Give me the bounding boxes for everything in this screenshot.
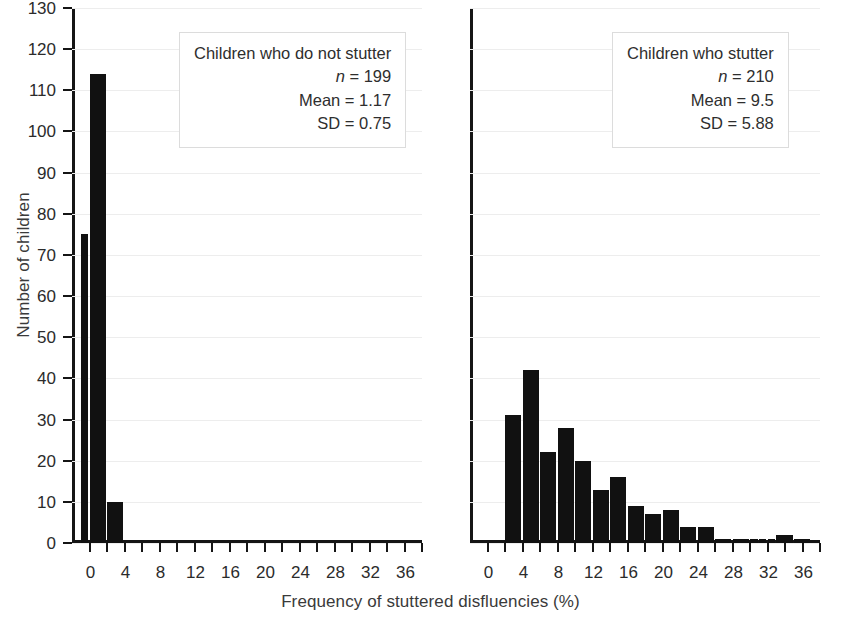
y-axis-tick — [63, 377, 72, 379]
y-axis-tick-label: 30 — [12, 411, 56, 428]
histogram-bar — [593, 490, 609, 544]
x-axis-tick-label: 12 — [176, 564, 216, 581]
x-axis-tick — [194, 543, 196, 552]
y-axis-tick — [63, 7, 72, 9]
y-axis-tick — [63, 213, 72, 215]
x-axis-tick — [386, 543, 388, 552]
x-axis-tick — [264, 543, 266, 552]
x-axis-tick — [662, 543, 664, 552]
x-axis-tick — [124, 543, 126, 552]
histogram-bar — [628, 506, 644, 543]
x-axis-tick — [299, 543, 301, 552]
annotation-mean: Mean = 1.17 — [194, 89, 391, 112]
x-axis-tick-label: 20 — [246, 564, 286, 581]
x-axis-tick — [749, 543, 751, 552]
x-axis-tick — [369, 543, 371, 552]
y-axis-tick — [63, 419, 72, 421]
x-axis-tick-label: 16 — [609, 564, 649, 581]
histogram-bar — [733, 539, 749, 543]
x-axis-tick — [539, 543, 541, 552]
gridline — [470, 173, 820, 174]
x-axis-tick — [644, 543, 646, 552]
x-axis-tick — [404, 543, 406, 552]
gridline — [72, 296, 422, 297]
annotation-sd: SD = 0.75 — [194, 112, 391, 135]
annotation-sd: SD = 5.88 — [627, 112, 774, 135]
y-axis-label: Number of children — [14, 145, 34, 385]
x-axis-tick-label: 4 — [504, 564, 544, 581]
y-axis-line-right — [470, 8, 473, 543]
x-axis-tick-label: 4 — [106, 564, 146, 581]
gridline — [470, 296, 820, 297]
x-axis-tick-label: 16 — [211, 564, 251, 581]
histogram-bar — [715, 539, 731, 543]
annotation-title: Children who stutter — [627, 42, 774, 65]
x-axis-tick — [627, 543, 629, 552]
x-axis-tick — [334, 543, 336, 552]
x-axis-tick — [557, 543, 559, 552]
histogram-bar — [107, 502, 123, 543]
x-axis-tick — [504, 543, 506, 552]
histogram-bar — [759, 539, 767, 543]
histogram-bar — [680, 527, 696, 543]
y-axis-tick-label: 10 — [12, 493, 56, 510]
x-axis-tick — [732, 543, 734, 552]
gridline — [470, 337, 820, 338]
histogram-bar — [505, 415, 521, 543]
x-axis-tick — [281, 543, 283, 552]
y-axis-tick — [63, 254, 72, 256]
histogram-bar — [90, 74, 106, 543]
histogram-bar — [663, 510, 679, 543]
annotation-n: n = 199 — [194, 65, 391, 88]
gridline — [72, 214, 422, 215]
annotation-mean: Mean = 9.5 — [627, 89, 774, 112]
x-axis-tick-label: 32 — [749, 564, 789, 581]
gridline — [72, 378, 422, 379]
histogram-bar — [575, 461, 591, 543]
panel-children-who-do-not-stutter: 04812162024283236 Children who do not st… — [72, 8, 422, 543]
y-axis-tick — [63, 336, 72, 338]
y-axis-tick — [63, 501, 72, 503]
x-axis-tick — [211, 543, 213, 552]
x-axis-tick-label: 0 — [469, 564, 509, 581]
y-axis-tick-label: 110 — [12, 82, 56, 99]
histogram-bar — [540, 452, 556, 543]
y-axis-tick-label: 0 — [12, 535, 56, 552]
annotation-n-symbol: n — [336, 67, 345, 85]
x-axis-tick — [784, 543, 786, 552]
x-axis-label: Frequency of stuttered disfluencies (%) — [0, 592, 861, 612]
annotation-box-stutter: Children who stutter n = 210 Mean = 9.5 … — [612, 32, 789, 148]
x-axis-tick — [141, 543, 143, 552]
x-axis-tick — [574, 543, 576, 552]
x-axis-tick — [316, 543, 318, 552]
x-axis-tick-label: 12 — [574, 564, 614, 581]
x-axis-tick — [522, 543, 524, 552]
x-axis-tick-label: 8 — [539, 564, 579, 581]
histogram-bar — [776, 535, 792, 543]
x-axis-tick — [246, 543, 248, 552]
y-axis-tick — [63, 89, 72, 91]
gridline — [72, 8, 422, 9]
x-axis-tick — [767, 543, 769, 552]
histogram-bar — [610, 477, 626, 543]
x-axis-tick — [421, 543, 423, 552]
gridline — [72, 337, 422, 338]
gridline — [72, 255, 422, 256]
x-axis-tick-label: 36 — [386, 564, 426, 581]
histogram-figure: 0102030405060708090100110120130 Number o… — [0, 0, 861, 639]
x-axis-tick-label: 28 — [316, 564, 356, 581]
histogram-bar — [558, 428, 574, 543]
annotation-n-symbol: n — [718, 67, 727, 85]
y-axis-tick-label: 120 — [12, 41, 56, 58]
histogram-bar — [523, 370, 539, 543]
y-axis-tick-label: 130 — [12, 0, 56, 17]
x-axis-tick — [229, 543, 231, 552]
gridline — [72, 461, 422, 462]
x-axis-tick — [89, 543, 91, 552]
histogram-bar — [768, 539, 776, 543]
x-axis-tick — [592, 543, 594, 552]
x-axis-tick-label: 8 — [141, 564, 181, 581]
x-axis-tick — [351, 543, 353, 552]
y-axis-line-left — [72, 8, 75, 543]
annotation-box-no-stutter: Children who do not stutter n = 199 Mean… — [179, 32, 406, 148]
